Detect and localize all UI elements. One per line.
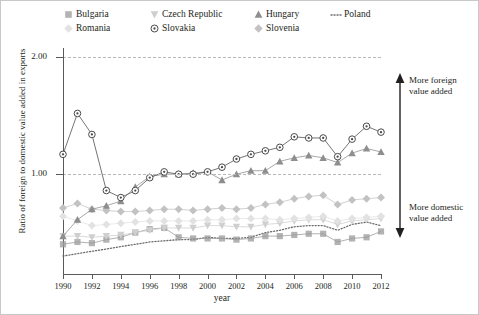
y-axis-title: Ratio of foreign to domestic value added… — [17, 41, 27, 241]
annotation-more-domestic: More domestic value added — [409, 202, 479, 223]
x-tick — [63, 274, 64, 279]
x-tick — [150, 274, 151, 279]
y-tick-label: 1.00 — [15, 168, 47, 178]
y-tick — [56, 57, 64, 58]
x-tick — [352, 274, 353, 279]
x-axis-line — [63, 274, 382, 275]
x-tick — [265, 274, 266, 279]
legend-label: Romania — [74, 23, 110, 33]
annotation-more-domestic-line1: More domestic — [409, 202, 463, 212]
y-tick-label: 2.00 — [15, 51, 47, 61]
x-tick — [121, 274, 122, 279]
x-tick — [323, 274, 324, 279]
legend-item-bulgaria[interactable]: Bulgaria — [63, 9, 109, 20]
legend-marker-open-diamond-icon — [253, 24, 264, 33]
legend-item-romania[interactable]: Romania — [63, 23, 110, 34]
annotation-more-foreign-line1: More foreign — [409, 75, 457, 85]
plot-area — [63, 48, 381, 270]
legend-label: Bulgaria — [74, 9, 109, 19]
gridline — [63, 174, 381, 175]
legend-label: Slovenia — [264, 23, 299, 33]
legend-label: Hungary — [264, 9, 299, 19]
x-tick — [381, 274, 382, 279]
x-tick — [236, 274, 237, 279]
legend-marker-open-diamond-icon — [63, 24, 74, 33]
x-tick — [92, 274, 93, 279]
series-layer — [63, 48, 381, 270]
legend-label: Czech Republic — [160, 9, 222, 19]
legend-item-slovakia[interactable]: Slovakia — [149, 23, 195, 34]
x-tick — [294, 274, 295, 279]
chart-figure: BulgariaCzech RepublicHungaryPolandRoman… — [0, 0, 479, 315]
legend-marker-open-square-icon — [63, 10, 74, 19]
x-tick-label: 2012 — [364, 281, 398, 291]
annotation-more-domestic-line2: value added — [409, 213, 452, 223]
x-tick — [179, 274, 180, 279]
gridline — [63, 57, 381, 58]
legend-item-hungary[interactable]: Hungary — [253, 9, 299, 20]
chart-legend: BulgariaCzech RepublicHungaryPolandRoman… — [63, 9, 393, 37]
legend-marker-circle-dot-icon — [149, 24, 160, 33]
legend-marker-down-triangle-icon — [149, 10, 160, 19]
direction-arrow — [393, 73, 407, 238]
y-tick — [56, 174, 64, 175]
x-tick — [208, 274, 209, 279]
legend-item-slovenia[interactable]: Slovenia — [253, 23, 299, 34]
legend-marker-up-triangle-icon — [253, 10, 264, 19]
annotation-more-foreign-line2: value added — [409, 86, 452, 96]
annotation-more-foreign: More foreign value added — [409, 75, 479, 96]
legend-item-poland[interactable]: Poland — [331, 9, 370, 20]
legend-label: Slovakia — [160, 23, 195, 33]
x-axis-title: year — [63, 293, 381, 303]
legend-item-czech-republic[interactable]: Czech Republic — [149, 9, 222, 20]
legend-marker-dotted-line-icon — [331, 11, 342, 19]
legend-label: Poland — [342, 9, 370, 19]
